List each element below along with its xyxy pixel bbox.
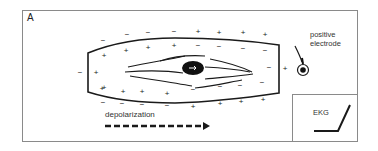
- minus-sign: −: [172, 28, 177, 36]
- nucleus-ellipse-icon: [182, 61, 204, 75]
- depolarization-label: depolarization: [105, 110, 155, 119]
- minus-sign: −: [260, 79, 265, 87]
- minus-sign: −: [101, 37, 106, 45]
- minus-sign: −: [140, 101, 145, 109]
- plus-sign: +: [261, 96, 266, 104]
- minus-sign: −: [218, 83, 223, 91]
- plus-sign: +: [172, 42, 177, 50]
- minus-sign: −: [78, 69, 83, 77]
- minus-sign: −: [125, 31, 130, 39]
- minus-sign: −: [263, 47, 268, 55]
- minus-sign: −: [120, 100, 125, 108]
- minus-sign: −: [196, 42, 201, 50]
- minus-sign: −: [238, 82, 243, 90]
- ekg-inset: [292, 94, 358, 142]
- plus-sign: +: [191, 103, 196, 111]
- plus-sign: +: [121, 88, 126, 96]
- minus-sign: −: [165, 102, 170, 110]
- minus-sign: −: [101, 99, 106, 107]
- plus-sign: +: [239, 98, 244, 106]
- plus-sign: +: [263, 31, 268, 39]
- plus-sign: +: [140, 88, 145, 96]
- minus-sign: −: [146, 29, 151, 37]
- minus-sign: −: [191, 86, 196, 94]
- circle-dot-icon: [295, 46, 309, 76]
- electrode-label-line1: positive: [310, 30, 341, 39]
- plus-sign: +: [196, 28, 201, 36]
- dashed-arrow-right-icon: [105, 122, 210, 130]
- plus-sign: +: [94, 69, 99, 77]
- electrode-label-line2: electrode: [310, 39, 341, 48]
- plus-sign: +: [241, 29, 246, 37]
- plus-sign: +: [146, 44, 151, 52]
- plus-sign: +: [165, 90, 170, 98]
- plus-sign: +: [283, 65, 288, 73]
- electrode-label: positive electrode: [310, 30, 341, 48]
- plus-sign: +: [102, 84, 107, 92]
- minus-sign: −: [267, 64, 272, 72]
- plus-sign: +: [124, 47, 129, 55]
- plus-sign: +: [102, 52, 107, 60]
- minus-sign: −: [241, 45, 246, 53]
- plus-sign: +: [217, 29, 222, 37]
- minus-sign: −: [217, 43, 222, 51]
- plus-sign: +: [218, 100, 223, 108]
- ekg-label: EKG: [313, 108, 329, 117]
